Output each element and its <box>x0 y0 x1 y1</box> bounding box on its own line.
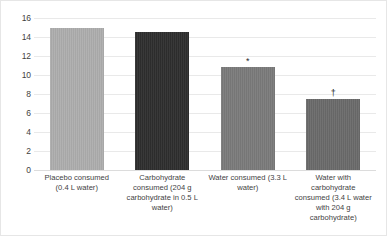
y-axis-tick-label: 10 <box>22 70 31 80</box>
bar-slot: * <box>205 18 291 170</box>
bar-significance-marker: * <box>246 57 250 66</box>
y-axis-tick-label: 8 <box>26 89 31 99</box>
y-axis-tick-label: 4 <box>26 127 31 137</box>
bar: * <box>221 67 275 170</box>
bar-significance-marker: † <box>331 89 336 98</box>
y-axis-tick-label: 2 <box>26 146 31 156</box>
bar <box>135 32 189 170</box>
bar-series: *† <box>34 18 376 170</box>
y-axis-tick-label: 0 <box>26 165 31 175</box>
bar-slot: † <box>291 18 377 170</box>
x-axis-category-label: Placebo consumed (0.4 L water) <box>34 173 120 223</box>
y-axis-tick-label: 12 <box>22 51 31 61</box>
bar-slot <box>34 18 120 170</box>
x-axis-category-label: Water with carbohydrate consumed (3.4 L … <box>291 173 377 223</box>
plot-area: 1614121086420 *† Placebo consumed (0.4 L… <box>1 1 386 235</box>
y-axis: 1614121086420 <box>9 18 31 170</box>
y-axis-tick-label: 14 <box>22 32 31 42</box>
bar: † <box>306 99 360 170</box>
bar <box>50 28 104 171</box>
y-axis-tick-label: 6 <box>26 108 31 118</box>
x-axis-category-label: Water consumed (3.3 L water) <box>205 173 291 223</box>
y-axis-tick-label: 16 <box>22 13 31 23</box>
x-axis-category-label: Carbohydrate consumed (204 g carbohydrat… <box>120 173 206 223</box>
x-axis-category-labels: Placebo consumed (0.4 L water)Carbohydra… <box>34 173 376 223</box>
bar-slot <box>120 18 206 170</box>
bar-chart-figure: 1614121086420 *† Placebo consumed (0.4 L… <box>0 0 387 236</box>
